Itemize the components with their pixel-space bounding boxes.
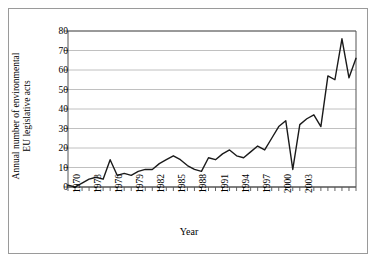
x-axis-tick-label: 1970 xyxy=(72,174,82,193)
x-axis-tick-label: 1976 xyxy=(114,174,124,193)
x-axis-tick-label: 2000 xyxy=(283,174,293,193)
x-axis-tick-label: 1982 xyxy=(156,174,166,193)
x-axis-tick-label: 2003 xyxy=(304,174,314,193)
x-axis-tick-label: 1997 xyxy=(262,174,272,193)
y-axis-title: Annual number of environmental EU legisl… xyxy=(11,36,33,196)
x-axis-tick-label: 1973 xyxy=(93,174,103,193)
x-axis-tick-label: 1991 xyxy=(220,174,230,193)
x-axis-tick-labels: 1970197319761979198219851988199119941997… xyxy=(0,0,378,263)
y-axis-title-line2: EU legislative acts xyxy=(22,36,33,196)
y-axis-title-line1: Annual number of environmental xyxy=(11,36,22,196)
x-axis-tick-label: 1979 xyxy=(135,174,145,193)
figure-container: 01020304050607080 1970197319761979198219… xyxy=(0,0,378,263)
x-axis-tick-label: 1988 xyxy=(198,174,208,193)
x-axis-title: Year xyxy=(0,226,378,237)
x-axis-tick-label: 1985 xyxy=(177,174,187,193)
x-axis-tick-label: 1994 xyxy=(241,174,251,193)
